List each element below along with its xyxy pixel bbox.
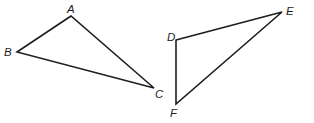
vertex-label-c: C <box>155 88 164 100</box>
vertex-label-f: F <box>170 107 178 119</box>
triangle-abc: A B C <box>4 3 164 100</box>
vertex-label-a: A <box>66 3 75 15</box>
triangle-def-outline <box>176 12 282 104</box>
triangle-def: D E F <box>167 5 294 119</box>
geometry-diagram: A B C D E F <box>0 0 314 123</box>
vertex-label-b: B <box>4 46 12 58</box>
vertex-label-e: E <box>286 5 294 17</box>
vertex-label-d: D <box>167 31 175 43</box>
triangle-abc-outline <box>17 16 154 88</box>
